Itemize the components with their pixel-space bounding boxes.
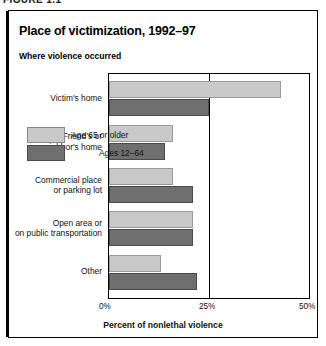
- figure-caption: FIGURE 1.1: [3, 0, 61, 5]
- bar: [109, 255, 161, 272]
- plot-area: [108, 73, 310, 299]
- x-tick-label-0: 0%: [99, 302, 111, 311]
- legend-swatch-ages-12-64: [27, 145, 65, 161]
- legend-label-ages-12-64: Ages 12–64: [99, 148, 144, 158]
- chart-subtitle: Where violence occurred: [19, 51, 121, 61]
- bar: [109, 99, 209, 116]
- chart-legend: Age 65 or older Ages 12–64: [27, 127, 175, 163]
- bar: [109, 211, 193, 228]
- bar: [109, 81, 281, 98]
- legend-swatch-age-65-or-older: [27, 127, 65, 143]
- category-label: Other: [7, 266, 102, 277]
- category-label: Commercial placeor parking lot: [7, 175, 102, 196]
- figure-panel: Place of victimization, 1992–97 Where vi…: [8, 10, 318, 338]
- category-label: Victim's home: [7, 93, 102, 104]
- bar: [109, 273, 197, 290]
- plot-inner: [109, 74, 309, 298]
- bar: [109, 186, 193, 203]
- x-gridline-25: [209, 74, 210, 298]
- legend-item-old: Age 65 or older: [27, 127, 175, 144]
- x-axis-title: Percent of nonlethal violence: [9, 320, 317, 330]
- bar: [109, 229, 193, 246]
- legend-item-young: Ages 12–64: [27, 145, 175, 162]
- legend-label-age-65-or-older: Age 65 or older: [71, 130, 128, 140]
- x-tick-label-25: 25%: [199, 302, 215, 311]
- category-label: Open area oron public transportation: [7, 218, 102, 239]
- x-tick-label-50: 50%: [299, 302, 315, 311]
- chart-title: Place of victimization, 1992–97: [19, 24, 196, 38]
- bar: [109, 168, 173, 185]
